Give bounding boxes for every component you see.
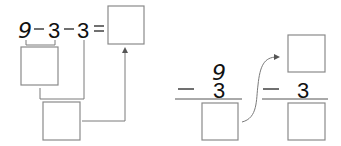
answer-box[interactable]: [108, 6, 144, 44]
step1-result-box[interactable]: [202, 103, 238, 140]
operand-3-first: 3: [48, 18, 60, 43]
intermediate-box[interactable]: [21, 47, 58, 85]
result-arrow: [82, 50, 125, 121]
operand-3-second: 3: [77, 18, 89, 43]
second-step-box[interactable]: [43, 102, 80, 140]
diagram-canvas: 9 3 3 9 3 3: [0, 0, 341, 146]
left-diagram: 9 3 3: [18, 6, 144, 140]
right-diagram: 9 3 3: [175, 35, 328, 140]
operand-9: 9: [18, 18, 32, 43]
step2-top-box[interactable]: [288, 35, 325, 72]
step2-result-box[interactable]: [288, 103, 325, 140]
